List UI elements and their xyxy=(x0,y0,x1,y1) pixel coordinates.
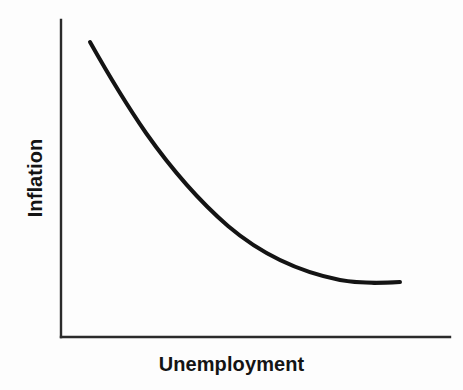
phillips-curve-figure: Unemployment Inflation xyxy=(0,0,463,390)
x-axis-label: Unemployment xyxy=(0,353,463,375)
y-axis-label: Inflation xyxy=(24,139,46,218)
chart-canvas xyxy=(0,0,463,390)
chart-background xyxy=(0,0,463,390)
